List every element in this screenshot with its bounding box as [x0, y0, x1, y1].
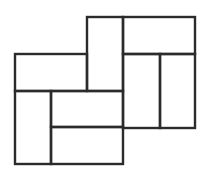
rectangle-tiling-diagram: [0, 0, 212, 172]
background: [0, 0, 212, 172]
